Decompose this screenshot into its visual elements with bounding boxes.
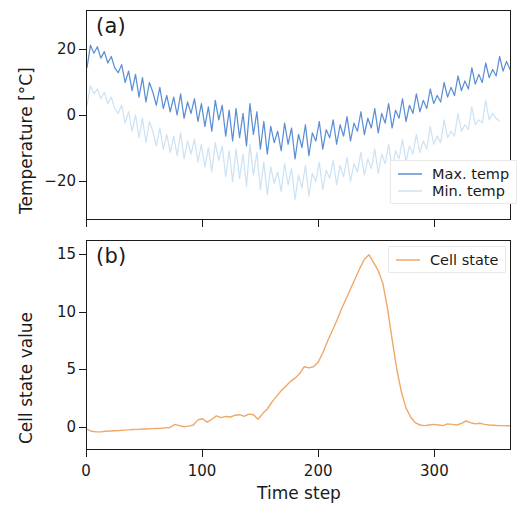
x-tick-mark [318, 450, 319, 457]
y-tick-label: −20 [44, 172, 76, 190]
legend-label: Cell state [430, 252, 498, 268]
x-tick-mark [202, 450, 203, 457]
legend-line-icon [397, 185, 423, 197]
series-line [87, 255, 510, 432]
series-line [87, 45, 510, 159]
y-tick-mark [79, 312, 86, 313]
y-tick-label: 10 [57, 303, 76, 321]
panel-a-letter: (a) [96, 14, 126, 38]
y-tick-mark [79, 369, 86, 370]
legend-item[interactable]: Max. temp [397, 165, 509, 182]
y-tick-label: 0 [66, 106, 76, 124]
legend-line-icon [397, 168, 423, 180]
legend-label: Min. temp [432, 183, 505, 199]
legend-item[interactable]: Cell state [395, 251, 498, 268]
x-tick-label: 100 [188, 462, 217, 480]
x-tick-label: 0 [81, 462, 91, 480]
y-tick-label: 15 [57, 245, 76, 263]
y-tick-mark [79, 115, 86, 116]
y-axis-label-panel-a: Temperature [°C] [16, 67, 36, 214]
legend-item[interactable]: Min. temp [397, 182, 509, 199]
x-tick-mark [86, 450, 87, 457]
x-tick-label: 300 [420, 462, 449, 480]
legend-line-icon [395, 254, 421, 266]
y-tick-mark [79, 49, 86, 50]
x-tick-mark [318, 220, 319, 227]
x-tick-mark [202, 220, 203, 227]
y-tick-mark [79, 254, 86, 255]
x-tick-label: 200 [304, 462, 333, 480]
x-tick-mark [434, 450, 435, 457]
legend-label: Max. temp [432, 166, 509, 182]
legend-panel-a: Max. tempMin. temp [390, 160, 517, 204]
x-tick-mark [434, 220, 435, 227]
y-tick-mark [79, 427, 86, 428]
x-axis-label: Time step [257, 483, 341, 503]
x-tick-mark [86, 220, 87, 227]
y-tick-mark [79, 181, 86, 182]
panel-b-letter: (b) [96, 244, 126, 268]
y-tick-label: 20 [57, 40, 76, 58]
legend-panel-b: Cell state [388, 246, 506, 273]
y-tick-label: 0 [66, 418, 76, 436]
y-tick-label: 5 [66, 360, 76, 378]
y-axis-label-panel-b: Cell state value [16, 312, 36, 444]
